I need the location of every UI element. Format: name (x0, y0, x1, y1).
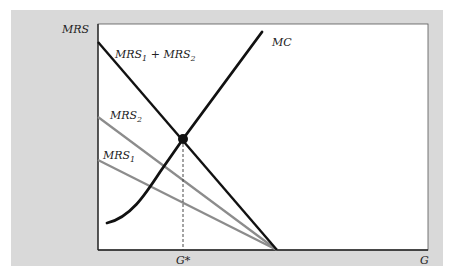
mrs-sum-label: MRS1 + MRS2 (114, 48, 196, 63)
g-star-label: G* (176, 254, 191, 267)
mc-label: MC (271, 36, 292, 49)
x-axis-label: G (420, 254, 429, 267)
y-axis-label: MRS (61, 23, 90, 36)
equilibrium-point (178, 134, 188, 144)
public-good-chart: MRS G G* MC MRS1 + MRS2 MRS2 MRS1 (0, 0, 453, 274)
